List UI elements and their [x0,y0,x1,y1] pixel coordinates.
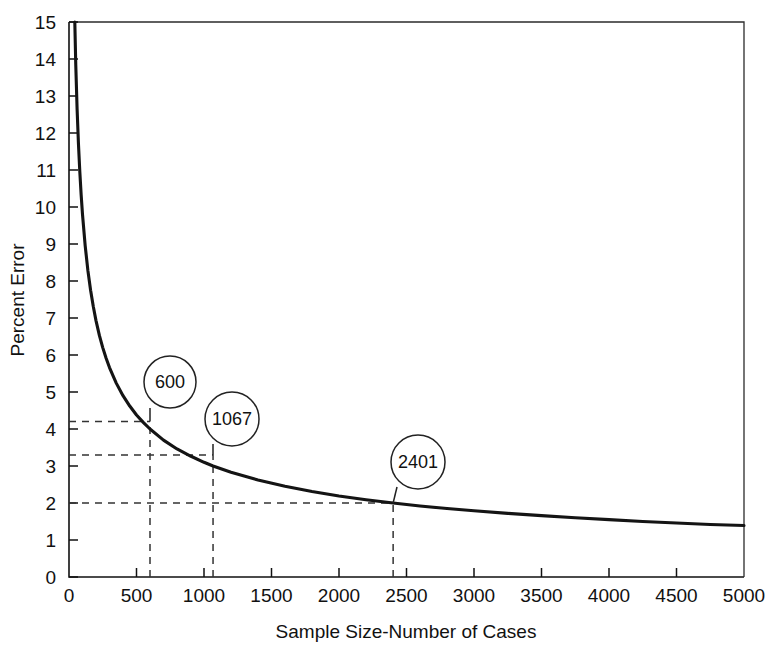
y-tick-label: 7 [45,308,56,329]
x-tick-label: 4500 [655,585,697,606]
y-tick-label: 11 [36,160,56,181]
callout-label: 2401 [398,452,438,472]
y-tick-label: 12 [35,123,56,144]
y-axis-title: Percent Error [7,243,28,357]
y-tick-label: 8 [45,271,56,292]
x-tick-label: 2000 [318,585,360,606]
chart-figure: 0123456789101112131415 05001000150020002… [0,0,773,653]
x-tick-label: 1000 [183,585,225,606]
y-tick-label: 13 [35,86,56,107]
y-tick-label: 2 [45,493,56,514]
y-tick-label: 4 [45,419,56,440]
y-tick-label: 5 [45,382,56,403]
x-tick-label: 1500 [250,585,292,606]
y-tick-label: 15 [35,12,56,33]
x-tick-label: 2500 [385,585,427,606]
y-tick-label: 14 [35,49,57,70]
x-tick-label: 4000 [588,585,630,606]
chart-background [0,0,773,653]
x-tick-label: 3000 [453,585,495,606]
x-axis-title: Sample Size-Number of Cases [276,621,537,642]
y-tick-label: 0 [45,567,56,588]
x-tick-label: 500 [121,585,153,606]
percent-error-chart: 0123456789101112131415 05001000150020002… [0,0,773,653]
y-tick-label: 3 [45,456,56,477]
x-tick-label: 5000 [723,585,765,606]
y-tick-label: 10 [35,197,56,218]
y-tick-label: 1 [45,530,56,551]
y-tick-label: 6 [45,345,56,366]
y-tick-label: 9 [45,234,56,255]
x-tick-label: 0 [64,585,75,606]
x-tick-label: 3500 [520,585,562,606]
callout-label: 1067 [212,409,252,429]
callout-label: 600 [155,372,185,392]
